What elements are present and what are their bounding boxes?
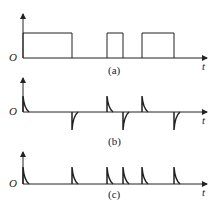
origin-label-a: O [9, 51, 17, 63]
caption-b: (b) [108, 135, 121, 147]
pulse-3 [142, 33, 174, 58]
pulse-2 [107, 33, 123, 58]
axis-label-a: t [202, 60, 205, 72]
caption-a: (a) [108, 64, 120, 76]
panel-b [23, 78, 207, 130]
axis-label-c: t [202, 186, 205, 198]
axis-label-b: t [202, 114, 205, 126]
origin-label-c: O [9, 177, 17, 189]
caption-c: (c) [108, 188, 120, 200]
panel-c [23, 152, 207, 184]
panel-a [23, 14, 207, 58]
pulse-1 [23, 33, 72, 58]
origin-label-b: O [9, 105, 17, 117]
pulse-diagram [0, 0, 219, 212]
